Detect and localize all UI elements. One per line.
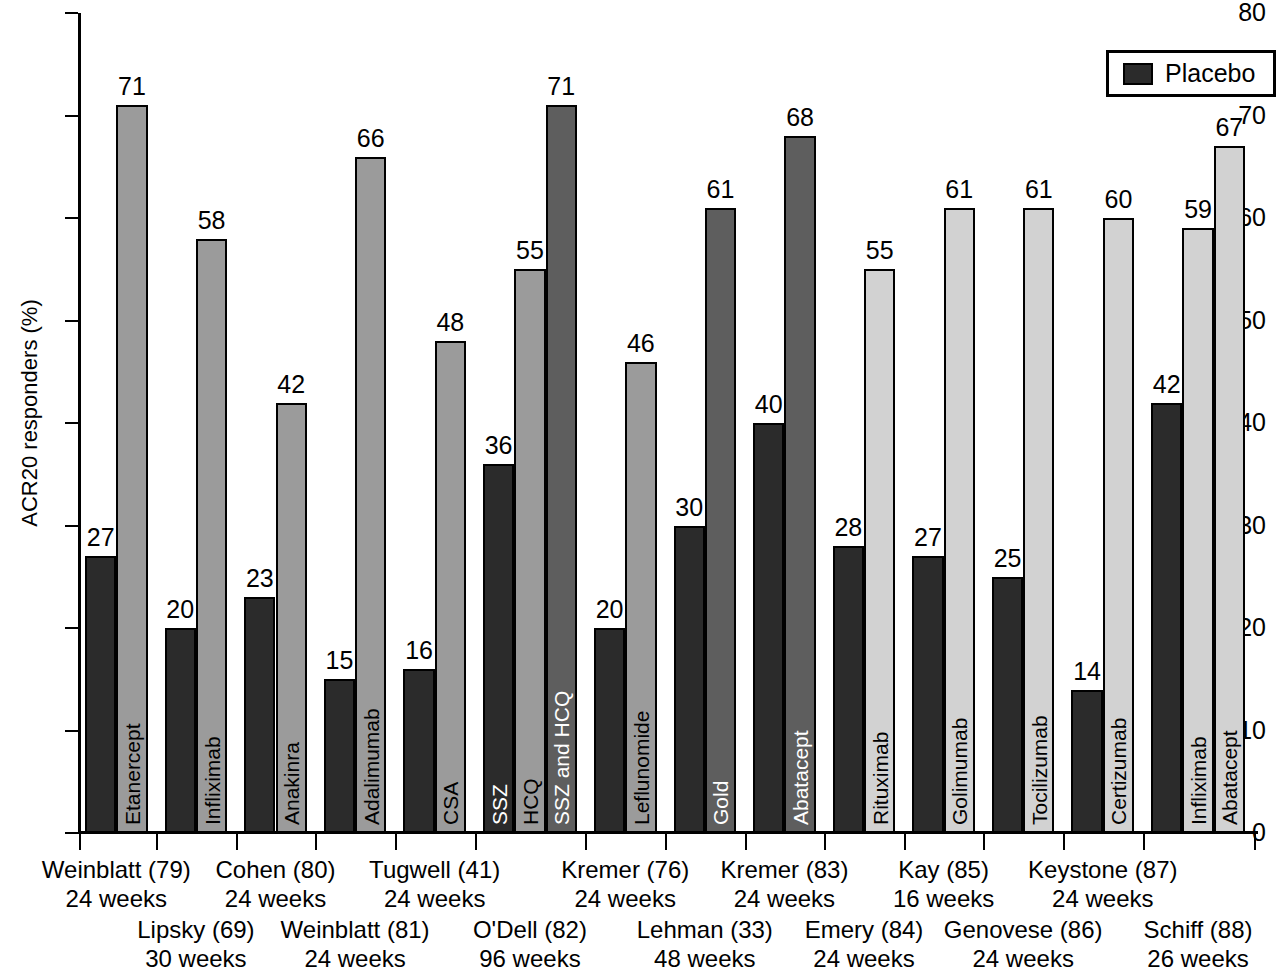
bar: CSA (435, 341, 466, 833)
group-study-name: O'Dell (82) (473, 916, 587, 943)
bar-value-label: 61 (1015, 177, 1062, 202)
bar-value-label: 61 (697, 177, 744, 202)
bar (594, 628, 625, 833)
bar (833, 546, 864, 833)
bar-drug-label: Golimumab (949, 718, 970, 825)
group-label: Schiff (88)26 weeks (1088, 915, 1280, 971)
bar-value-label: 60 (1095, 187, 1142, 212)
x-tick-origin (79, 834, 81, 850)
bar: Infliximab (196, 239, 227, 834)
bar-drug-label: Infliximab (1188, 736, 1209, 825)
bar-value-label: 58 (188, 208, 235, 233)
bar-drug-label: Certizumab (1108, 718, 1129, 825)
bar-value-label: 67 (1206, 115, 1253, 140)
group-label: Tugwell (41)24 weeks (325, 855, 545, 913)
bar (324, 679, 355, 833)
bar: Certizumab (1103, 218, 1134, 833)
group-duration: 24 weeks (993, 884, 1213, 913)
bar: Adalimumab (355, 157, 386, 834)
x-tick (1063, 834, 1065, 850)
bar (674, 526, 705, 834)
bar-value-label: 48 (427, 310, 474, 335)
bar-drug-label: Adalimumab (360, 708, 381, 825)
group-duration: 26 weeks (1088, 944, 1280, 971)
group-study-name: Schiff (88) (1144, 916, 1253, 943)
group-study-name: Weinblatt (81) (281, 916, 430, 943)
y-tick-70 (65, 115, 78, 117)
legend-swatch-placebo (1123, 63, 1153, 85)
bar-value-label: 61 (936, 177, 983, 202)
bar-drug-label: SSZ (488, 784, 509, 825)
group-study-name: Tugwell (41) (369, 856, 500, 883)
group-label: Keystone (87)24 weeks (993, 855, 1213, 913)
x-tick (395, 834, 397, 850)
bar-drug-label: Abatacept (790, 730, 811, 825)
bar-drug-label: Anakinra (281, 742, 302, 825)
bar: Rituximab (864, 269, 895, 833)
group-study-name: Kremer (83) (720, 856, 848, 883)
x-tick (824, 834, 826, 850)
bar-drug-label: Tocilizumab (1028, 715, 1049, 825)
group-study-name: Emery (84) (805, 916, 924, 943)
y-axis-line (78, 13, 81, 833)
bar: Anakinra (276, 403, 307, 834)
bar: Abatacept (1214, 146, 1245, 833)
bar-drug-label: Abatacept (1219, 730, 1240, 825)
y-tick-80 (65, 12, 78, 14)
bar: Etanercept (116, 105, 147, 833)
x-tick (665, 834, 667, 850)
y-tick-10 (65, 730, 78, 732)
y-tick-label-80: 80 (1220, 0, 1266, 25)
bar-drug-label: Leflunomide (630, 711, 651, 825)
bar-drug-label: HCQ (519, 778, 540, 825)
bar: Gold (705, 208, 736, 833)
bar-drug-label: SSZ and HCQ (551, 691, 572, 825)
legend-label-placebo: Placebo (1165, 61, 1255, 86)
bar-value-label: 66 (347, 126, 394, 151)
x-tick (315, 834, 317, 850)
bar (1071, 690, 1102, 834)
bar-value-label: 68 (776, 105, 823, 130)
group-study-name: Lipsky (69) (137, 916, 254, 943)
bar-value-label: 71 (538, 74, 585, 99)
bar-value-label: 71 (108, 74, 155, 99)
y-tick-20 (65, 627, 78, 629)
group-study-name: Keystone (87) (1028, 856, 1177, 883)
y-tick-50 (65, 320, 78, 322)
bar-drug-label: Etanercept (121, 723, 142, 825)
group-study-name: Lehman (33) (637, 916, 773, 943)
bar-drug-label: Gold (710, 781, 731, 825)
bar: Leflunomide (625, 362, 656, 834)
bar: Infliximab (1182, 228, 1213, 833)
bar (912, 556, 943, 833)
bar: Tocilizumab (1023, 208, 1054, 833)
group-study-name: Kremer (76) (561, 856, 689, 883)
legend: Placebo (1106, 50, 1276, 97)
x-tick (475, 834, 477, 850)
y-tick-40 (65, 422, 78, 424)
bar (244, 597, 275, 833)
x-tick (585, 834, 587, 850)
y-tick-0 (65, 832, 78, 834)
bar: HCQ (514, 269, 545, 833)
bar: Abatacept (784, 136, 815, 833)
y-axis-title: ACR20 responders (%) (17, 233, 43, 593)
bar (753, 423, 784, 833)
bar: Golimumab (944, 208, 975, 833)
group-duration: 24 weeks (325, 884, 545, 913)
group-study-name: Kay (85) (898, 856, 989, 883)
x-tick (745, 834, 747, 850)
bar (992, 577, 1023, 833)
bar-value-label: 46 (617, 331, 664, 356)
bar-drug-label: Rituximab (869, 732, 890, 825)
x-tick (1254, 834, 1256, 850)
x-tick (236, 834, 238, 850)
bar: SSZ (483, 464, 514, 833)
bar (403, 669, 434, 833)
bar-drug-label: Infliximab (201, 736, 222, 825)
y-tick-60 (65, 217, 78, 219)
bar (1151, 403, 1182, 834)
bar (165, 628, 196, 833)
x-tick (1143, 834, 1145, 850)
